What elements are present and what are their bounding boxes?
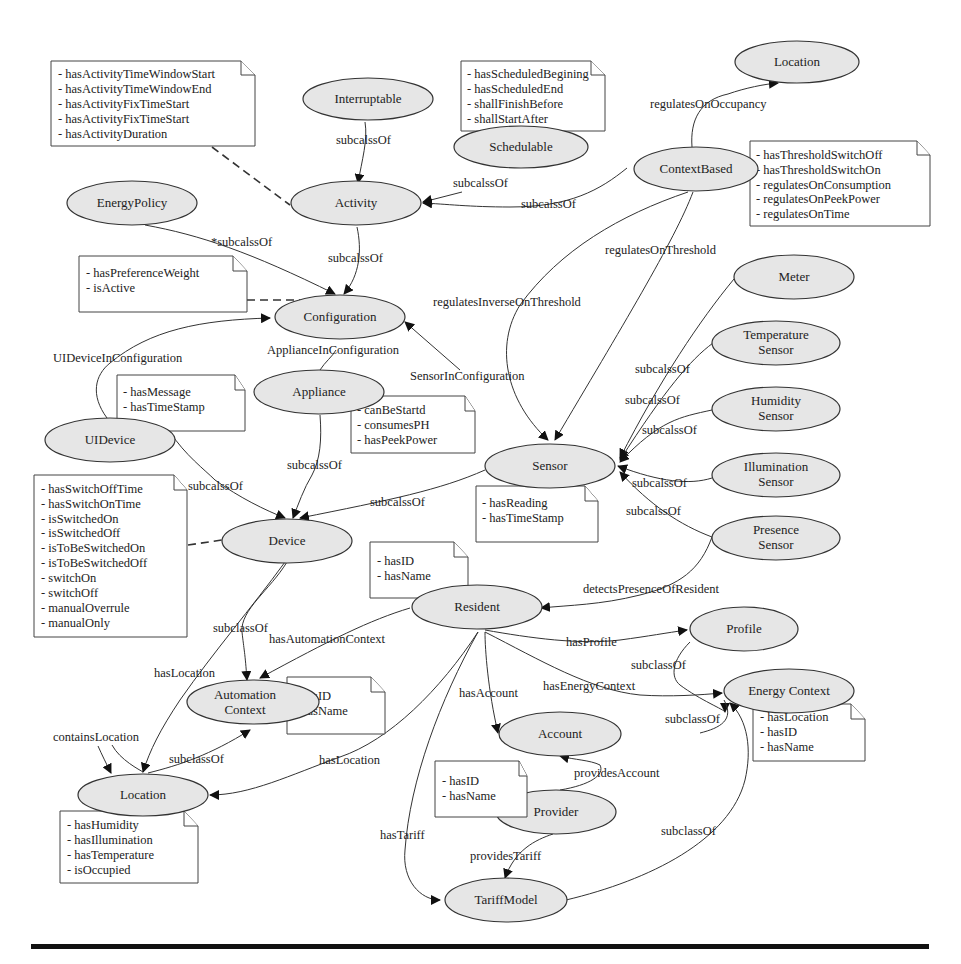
- node-label-line2: Sensor: [758, 342, 794, 357]
- node-label-line1: Humidity: [751, 393, 801, 408]
- node-uidevice[interactable]: UIDevice: [45, 418, 175, 462]
- label-resident-energy: hasEnergyContext: [543, 679, 636, 693]
- label-illum-sensor: subcalssOf: [632, 476, 688, 490]
- node-presence-sensor[interactable]: Presence Sensor: [712, 516, 840, 560]
- label-resident-account: hasAccount: [459, 686, 519, 700]
- bottom-rule: [31, 944, 929, 949]
- note-line: - hasName: [760, 740, 814, 754]
- note-line: - hasSwitchOffTime: [41, 482, 143, 496]
- note-line: - regulatesOnConsumption: [756, 178, 892, 192]
- node-activity[interactable]: Activity: [291, 181, 421, 225]
- label-context-location: regulatesOnOccupancy: [650, 97, 767, 111]
- note-schedulable-properties: - hasScheduledBegining - hasScheduledEnd…: [461, 61, 605, 131]
- label-provider-account: providesAccount: [574, 766, 660, 780]
- node-location-top[interactable]: Location: [735, 41, 859, 83]
- note-location-properties: - hasHumidity - hasIllumination - hasTem…: [60, 811, 198, 883]
- node-label: Schedulable: [489, 139, 553, 154]
- node-interruptable[interactable]: Interruptable: [303, 78, 433, 120]
- node-location-bottom[interactable]: Location: [78, 774, 208, 816]
- label-schedulable-activity: subcalssOf: [453, 176, 509, 190]
- note-line: - hasTemperature: [67, 848, 154, 862]
- node-label: Provider: [534, 804, 579, 819]
- note-context-based-properties: - hasThresholdSwitchOff - hasThresholdSw…: [750, 141, 930, 226]
- node-humidity-sensor[interactable]: Humidity Sensor: [712, 387, 840, 431]
- node-meter[interactable]: Meter: [734, 255, 854, 299]
- label-context-inverse: regulatesInverseOnThreshold: [433, 295, 582, 309]
- edge-presence-resident: [541, 537, 712, 608]
- note-line: - hasActivityFixTimeStart: [58, 112, 190, 126]
- edge-profile-energy: [674, 642, 725, 712]
- edge-resident-account: [485, 632, 498, 733]
- node-context-based[interactable]: ContextBased: [634, 147, 758, 191]
- node-label: Profile: [726, 621, 762, 636]
- node-device[interactable]: Device: [222, 519, 352, 563]
- note-line: - hasActivityFixTimeStart: [58, 97, 190, 111]
- edge-sensor-config: [405, 322, 460, 370]
- node-label: Meter: [778, 269, 810, 284]
- node-temperature-sensor[interactable]: Temperature Sensor: [712, 321, 840, 365]
- node-label-line2: Sensor: [758, 474, 794, 489]
- note-line: - isSwitchedOff: [41, 526, 121, 540]
- note-line: - hasReading: [482, 496, 548, 510]
- edge-activity-note: [212, 147, 290, 205]
- note-line: - hasID: [760, 725, 797, 739]
- node-label-line2: Sensor: [758, 408, 794, 423]
- label-uidevice-device: subcalssOf: [188, 479, 244, 493]
- note-line: - hasTimeStamp: [123, 400, 205, 414]
- node-label: Location: [120, 787, 167, 802]
- label-energypolicy-config: *subcalssOf: [211, 235, 273, 249]
- node-label: Configuration: [304, 309, 377, 324]
- node-resident[interactable]: Resident: [412, 585, 542, 629]
- node-account[interactable]: Account: [499, 712, 621, 756]
- label-device-automation: subclassOf: [213, 621, 269, 635]
- label-resident-location: hasLocation: [319, 753, 381, 767]
- node-automation-context[interactable]: Automation Context: [187, 680, 319, 724]
- note-line: - hasMessage: [123, 385, 191, 399]
- node-label: EnergyPolicy: [97, 195, 168, 210]
- label-location-automation: subclassOf: [169, 752, 225, 766]
- node-label-line1: Presence: [753, 522, 799, 537]
- node-configuration[interactable]: Configuration: [275, 295, 405, 339]
- node-label: Interruptable: [334, 91, 401, 106]
- edge-device-note: [188, 540, 222, 545]
- node-label: Appliance: [292, 384, 346, 399]
- label-meter-sensor: subcalssOf: [635, 362, 691, 376]
- ontology-diagram: subcalssOf subcalssOf subcalssOf regulat…: [0, 0, 961, 964]
- note-line: - hasIllumination: [67, 833, 153, 847]
- edge-schedulable-activity: [423, 192, 462, 202]
- note-line: - consumesPH: [357, 418, 430, 432]
- node-profile[interactable]: Profile: [690, 607, 798, 651]
- label-device-location: hasLocation: [154, 666, 216, 680]
- note-line: - switchOn: [41, 571, 97, 585]
- node-tariff-model[interactable]: TariffModel: [445, 878, 567, 922]
- label-resident-tariff: hasTariff: [380, 828, 426, 842]
- note-line: - isActive: [86, 281, 135, 295]
- note-line: - hasPeekPower: [357, 433, 438, 447]
- note-line: - regulatesOnTime: [756, 207, 850, 221]
- node-label: UIDevice: [85, 432, 136, 447]
- note-line: - isToBeSwitchedOn: [41, 541, 146, 555]
- note-line: - hasName: [442, 789, 496, 803]
- node-sensor[interactable]: Sensor: [485, 444, 615, 488]
- note-line: - manualOnly: [41, 616, 111, 630]
- note-line: - hasScheduledEnd: [467, 82, 564, 96]
- note-line: - manualOverrule: [41, 601, 130, 615]
- node-label: Location: [774, 54, 821, 69]
- note-line: - isSwitchedOn: [41, 512, 119, 526]
- edge-location-contains-arrow: [98, 746, 111, 773]
- edge-sensor-device: [300, 470, 485, 518]
- node-energy-policy[interactable]: EnergyPolicy: [67, 181, 197, 225]
- note-line: - hasScheduledBegining: [467, 67, 590, 81]
- node-energy-context[interactable]: Energy Context: [724, 669, 854, 713]
- note-line: - hasID: [377, 554, 414, 568]
- node-illumination-sensor[interactable]: Illumination Sensor: [712, 453, 840, 497]
- note-line: - hasPreferenceWeight: [86, 266, 200, 280]
- note-activity-properties: - hasActivityTimeWindowStart - hasActivi…: [51, 61, 255, 146]
- label-sensor-device: subcalssOf: [370, 495, 426, 509]
- node-appliance[interactable]: Appliance: [254, 370, 384, 414]
- note-line: - hasTimeStamp: [482, 511, 564, 525]
- node-schedulable[interactable]: Schedulable: [454, 126, 588, 168]
- edge-context-location: [692, 83, 778, 147]
- node-label: TariffModel: [474, 892, 537, 907]
- node-label-line2: Context: [224, 702, 266, 717]
